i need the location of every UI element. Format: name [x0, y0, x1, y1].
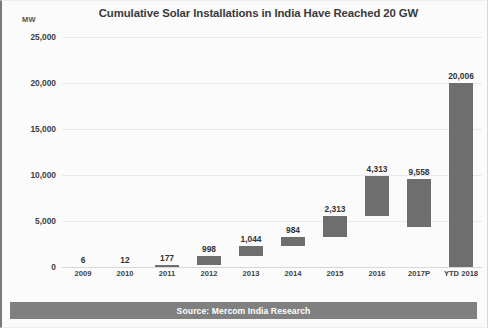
- bar-slot[interactable]: 6: [62, 37, 104, 267]
- x-axis-tick-label: 2017P: [398, 269, 440, 278]
- bar-value-label: 6: [81, 255, 86, 265]
- x-axis-tick-label: 2016: [356, 269, 398, 278]
- bar-slot[interactable]: 12: [104, 37, 146, 267]
- bar[interactable]: [323, 216, 347, 237]
- bar-value-label: 998: [202, 244, 216, 254]
- x-axis-tick-label: 2009: [62, 269, 104, 278]
- bar-value-label: 20,006: [448, 71, 474, 81]
- bar-value-label: 12: [120, 255, 129, 265]
- bar-slot[interactable]: 1,044: [230, 37, 272, 267]
- x-axis-tick-label: 2011: [146, 269, 188, 278]
- x-axis-tick-label: 2014: [272, 269, 314, 278]
- source-bar: Source: Mercom India Research: [10, 302, 477, 319]
- bar-value-label: 984: [286, 225, 300, 235]
- bar-slot[interactable]: 2,313: [314, 37, 356, 267]
- y-axis-tick-label: 20,000: [30, 78, 56, 88]
- bar-slot[interactable]: 998: [188, 37, 230, 267]
- y-axis-tick-label: 15,000: [30, 124, 56, 134]
- y-axis-unit-label: MW: [22, 15, 36, 24]
- x-axis-tick-label: 2013: [230, 269, 272, 278]
- gridline: 0: [62, 267, 482, 268]
- bar-slot[interactable]: 4,313: [356, 37, 398, 267]
- bar[interactable]: [365, 176, 389, 216]
- x-axis: 200920102011201220132014201520162017PYTD…: [62, 269, 482, 285]
- x-axis-tick-label: YTD 2018: [440, 269, 482, 278]
- bar-value-label: 1,044: [241, 234, 262, 244]
- bar-value-label: 177: [160, 253, 174, 263]
- plot-area: 05,00010,00015,00020,00025,000 612177998…: [62, 37, 482, 267]
- y-axis-tick-label: 5,000: [35, 216, 56, 226]
- bar-slot[interactable]: 9,558: [398, 37, 440, 267]
- bar[interactable]: [239, 246, 263, 256]
- y-axis-tick-label: 25,000: [30, 32, 56, 42]
- bar-value-label: 2,313: [325, 204, 346, 214]
- bar[interactable]: [155, 265, 179, 267]
- x-axis-tick-label: 2010: [104, 269, 146, 278]
- bar[interactable]: [281, 237, 305, 246]
- y-axis-tick-label: 10,000: [30, 170, 56, 180]
- bar-value-label: 9,558: [409, 167, 430, 177]
- bar[interactable]: [197, 256, 221, 265]
- x-axis-tick-label: 2012: [188, 269, 230, 278]
- chart-title: Cumulative Solar Installations in India …: [2, 7, 487, 19]
- source-text: Source: Mercom India Research: [177, 306, 311, 316]
- bar-slot[interactable]: 20,006: [440, 37, 482, 267]
- bar[interactable]: [449, 83, 473, 267]
- bar-slot[interactable]: 177: [146, 37, 188, 267]
- chart-screenshot: Cumulative Solar Installations in India …: [0, 0, 488, 328]
- bar-series: 6121779981,0449842,3134,3139,55820,006: [62, 37, 482, 267]
- bar[interactable]: [407, 179, 431, 227]
- bar-value-label: 4,313: [367, 164, 388, 174]
- x-axis-tick-label: 2015: [314, 269, 356, 278]
- bar-slot[interactable]: 984: [272, 37, 314, 267]
- y-axis-tick-label: 0: [51, 262, 56, 272]
